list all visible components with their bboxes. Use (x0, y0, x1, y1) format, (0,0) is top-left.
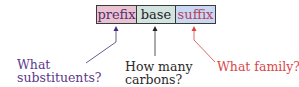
suffix-annotation: What family? (217, 61, 299, 74)
suffix-arrow (194, 29, 215, 62)
base-arrowhead-icon (153, 26, 158, 31)
base-annotation-line2: carbons? (125, 74, 182, 87)
prefix-arrow (86, 29, 116, 63)
suffix-arrowhead-icon (192, 26, 197, 31)
prefix-arrowhead-icon (114, 26, 119, 31)
prefix-box: prefix (96, 5, 137, 24)
prefix-annotation-line2: substituents? (17, 72, 102, 85)
base-box: base (136, 5, 176, 24)
suffix-box: suffix (175, 5, 216, 24)
